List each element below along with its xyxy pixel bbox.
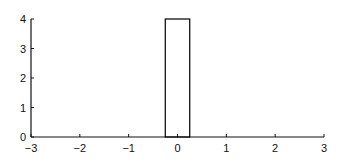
pulse-bar: [165, 19, 189, 137]
y-tick-label: 4: [20, 13, 26, 25]
x-tick-label: 1: [223, 142, 229, 154]
x-tick-label: −1: [122, 142, 135, 154]
y-tick-label: 0: [20, 131, 26, 143]
chart: −3−2−1012301234: [0, 0, 342, 162]
x-tick-label: 3: [321, 142, 327, 154]
x-tick-label: 0: [174, 142, 180, 154]
x-tick-label: −2: [74, 142, 87, 154]
x-tick-label: −3: [25, 142, 38, 154]
plot-area: −3−2−1012301234: [20, 13, 327, 154]
y-tick-label: 2: [20, 72, 26, 84]
y-tick-label: 1: [20, 102, 26, 114]
x-tick-label: 2: [272, 142, 278, 154]
y-tick-label: 3: [20, 43, 26, 55]
